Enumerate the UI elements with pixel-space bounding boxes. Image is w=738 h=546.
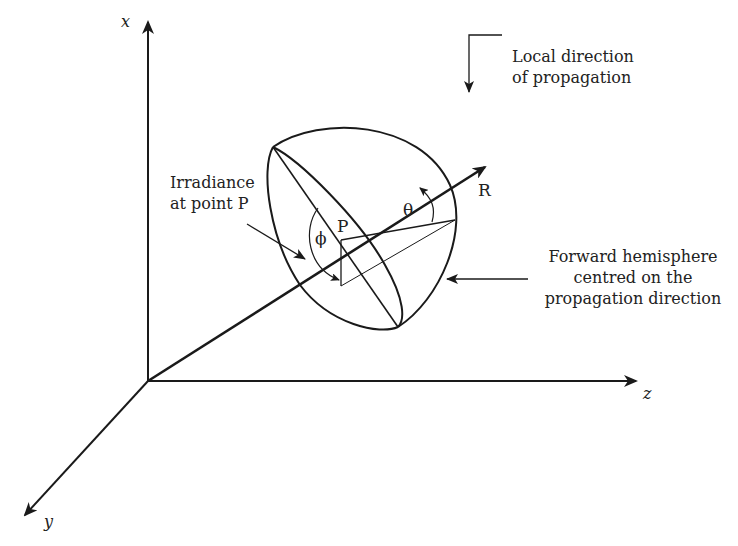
y-axis [25,381,148,515]
forward-hemisphere [267,128,456,330]
x-axis-label: x [121,12,130,32]
r-axis-label: R [478,180,491,200]
theta-label: θ [403,200,413,220]
local-direction-pointer [469,35,502,92]
hemisphere-label: Forward hemisphere centred on the propag… [535,246,731,309]
z-axis-label: z [643,384,651,404]
point-p-label: P [337,216,348,236]
local-direction-line-2: of propagation [512,67,634,88]
hemisphere-line-2: centred on the [535,267,731,288]
irradiance-line-1: Irradiance [170,172,255,193]
phi-label: ϕ [315,228,327,248]
hemisphere-dome [273,128,456,327]
rim-diameter [273,147,398,327]
local-direction-label: Local direction of propagation [512,46,634,88]
hemisphere-rim-back [267,147,398,330]
hemisphere-line-1: Forward hemisphere [535,246,731,267]
irradiance-label: Irradiance at point P [170,172,255,214]
irradiance-line-2: at point P [170,193,255,214]
local-direction-line-1: Local direction [512,46,634,67]
hemisphere-line-3: propagation direction [535,288,731,309]
y-axis-label: y [44,512,53,532]
